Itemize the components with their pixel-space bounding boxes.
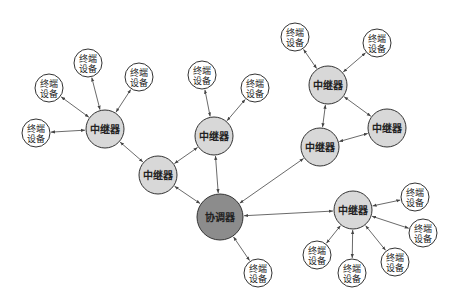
end-device-node: 终端设备 bbox=[338, 259, 366, 287]
end-device-node: 终端设备 bbox=[363, 29, 391, 57]
router-node: 中继器 bbox=[368, 109, 406, 147]
link-R1-R2 bbox=[120, 142, 143, 162]
end-device-node: 终端设备 bbox=[244, 259, 272, 287]
network-topology-diagram: 协调器中继器中继器中继器中继器中继器中继器中继器终端设备终端设备终端设备终端设备… bbox=[0, 0, 457, 308]
node-label: 中继器 bbox=[372, 122, 403, 134]
node-label: 中继器 bbox=[90, 123, 121, 135]
node-label: 终端 bbox=[79, 53, 97, 64]
end-device-node: 终端设备 bbox=[401, 183, 429, 211]
node-label: 设备 bbox=[249, 273, 267, 284]
link-R7-E14 bbox=[326, 226, 340, 244]
router-node: 中继器 bbox=[139, 156, 177, 194]
link-R3-C bbox=[215, 156, 218, 193]
node-label: 设备 bbox=[368, 43, 386, 54]
link-R3-E6 bbox=[227, 99, 245, 120]
end-device-node: 终端设备 bbox=[74, 49, 102, 77]
end-device-node: 终端设备 bbox=[35, 74, 63, 102]
link-R6-C bbox=[240, 158, 304, 203]
node-label: 中继器 bbox=[143, 169, 174, 181]
node-label: 设备 bbox=[193, 75, 211, 86]
node-label: 设备 bbox=[130, 77, 148, 88]
link-R3-E5 bbox=[205, 90, 210, 117]
link-R4-R6 bbox=[323, 105, 326, 127]
link-R1-E2 bbox=[92, 78, 100, 110]
node-label: 设备 bbox=[286, 37, 304, 48]
node-label: 设备 bbox=[308, 255, 326, 266]
end-device-node: 终端设备 bbox=[409, 219, 437, 247]
node-label: 中继器 bbox=[199, 130, 230, 142]
node-label: 设备 bbox=[386, 262, 404, 273]
node-label: 终端 bbox=[130, 67, 148, 78]
link-R7-E10 bbox=[373, 200, 401, 206]
link-R1-E3 bbox=[116, 90, 131, 113]
node-label: 协调器 bbox=[205, 211, 236, 223]
node-label: 中继器 bbox=[305, 141, 336, 153]
node-label: 中继器 bbox=[313, 79, 344, 91]
node-label: 设备 bbox=[40, 88, 58, 99]
link-R7-E11 bbox=[372, 216, 409, 228]
node-label: 终端 bbox=[386, 252, 404, 263]
node-label: 终端 bbox=[193, 65, 211, 76]
coordinator-node: 协调器 bbox=[197, 194, 243, 240]
router-node: 中继器 bbox=[86, 110, 124, 148]
node-label: 终端 bbox=[40, 78, 58, 89]
node-label: 终端 bbox=[406, 187, 424, 198]
link-C-E9 bbox=[233, 237, 249, 261]
end-device-node: 终端设备 bbox=[125, 63, 153, 91]
router-node: 中继器 bbox=[334, 191, 372, 229]
link-R4-E8 bbox=[343, 53, 365, 72]
node-label: 终端 bbox=[343, 263, 361, 274]
node-label: 终端 bbox=[27, 123, 45, 134]
router-node: 中继器 bbox=[301, 128, 339, 166]
node-label: 设备 bbox=[414, 233, 432, 244]
link-R4-E7 bbox=[303, 49, 316, 68]
node-layer: 协调器中继器中继器中继器中继器中继器中继器中继器终端设备终端设备终端设备终端设备… bbox=[22, 23, 437, 287]
end-device-node: 终端设备 bbox=[241, 74, 269, 102]
end-device-node: 终端设备 bbox=[281, 23, 309, 51]
link-R5-R6 bbox=[339, 133, 368, 141]
link-R1-E4 bbox=[51, 130, 85, 132]
node-label: 终端 bbox=[246, 78, 264, 89]
node-label: 终端 bbox=[308, 245, 326, 256]
link-R2-R3 bbox=[174, 147, 197, 163]
link-R2-C bbox=[175, 186, 201, 203]
end-device-node: 终端设备 bbox=[303, 241, 331, 269]
router-node: 中继器 bbox=[195, 117, 233, 155]
node-label: 终端 bbox=[414, 223, 432, 234]
link-R1-E1 bbox=[61, 97, 89, 117]
link-R7-E12 bbox=[366, 226, 386, 251]
router-node: 中继器 bbox=[309, 66, 347, 104]
node-label: 设备 bbox=[406, 197, 424, 208]
end-device-node: 终端设备 bbox=[381, 248, 409, 276]
node-label: 中继器 bbox=[338, 204, 369, 216]
link-C-R7 bbox=[244, 211, 333, 216]
node-label: 设备 bbox=[27, 133, 45, 144]
node-label: 设备 bbox=[79, 63, 97, 74]
node-label: 终端 bbox=[249, 263, 267, 274]
end-device-node: 终端设备 bbox=[22, 119, 50, 147]
node-label: 设备 bbox=[246, 88, 264, 99]
node-label: 终端 bbox=[368, 33, 386, 44]
node-label: 终端 bbox=[286, 27, 304, 38]
end-device-node: 终端设备 bbox=[188, 61, 216, 89]
link-R4-R5 bbox=[344, 97, 371, 116]
node-label: 设备 bbox=[343, 273, 361, 284]
